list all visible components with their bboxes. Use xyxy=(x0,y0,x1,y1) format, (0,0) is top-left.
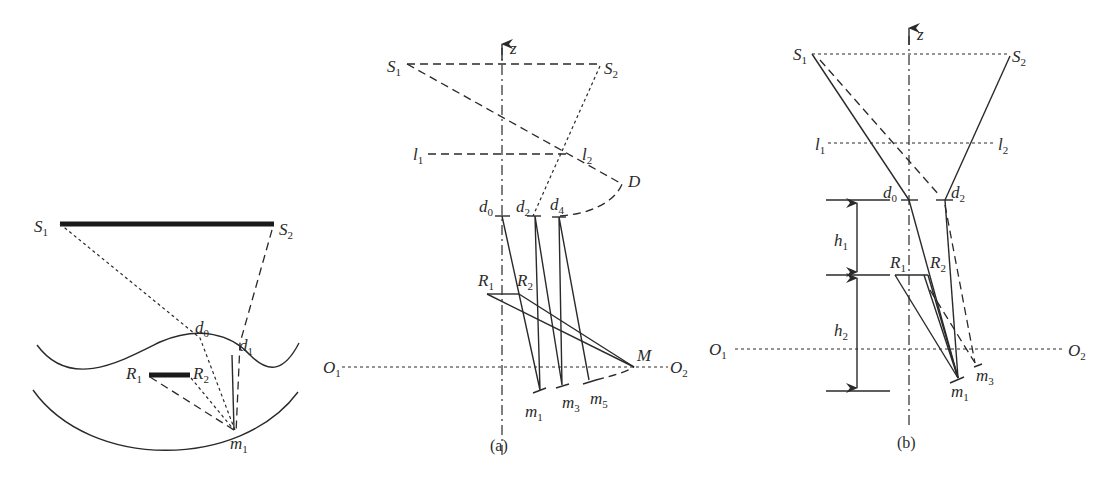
d-arc xyxy=(560,184,622,216)
label-s1-a: S1 xyxy=(387,57,401,78)
label-s2-b: S2 xyxy=(1012,47,1026,68)
label-l1-a: l1 xyxy=(413,145,423,166)
label-m-point-a: M xyxy=(636,346,652,365)
left-panel: S1 S2 d0 d1 R1 R2 m1 xyxy=(33,217,299,455)
panel-b: z S1 S2 l1 l2 d0 d2 h1 h2 R1 R2 O1 O2 m1… xyxy=(709,25,1086,452)
ray-r1-m1 xyxy=(150,377,234,430)
ray-s1-d2-dashed xyxy=(820,60,940,196)
ray-r2-m1 xyxy=(191,378,234,430)
ray-s2-d2 xyxy=(945,56,1010,200)
label-r1-b: R1 xyxy=(889,253,906,274)
label-z-a: z xyxy=(509,39,517,58)
ray-s1-d xyxy=(407,64,622,184)
label-d0-b: d0 xyxy=(883,183,898,204)
ray-r2-m xyxy=(519,294,634,367)
label-o2-b: O2 xyxy=(1068,341,1086,362)
upper-interface-curve xyxy=(37,333,299,369)
label-l2-a: l2 xyxy=(582,145,592,166)
label-d1: d1 xyxy=(239,336,253,357)
label-m1: m1 xyxy=(230,434,248,455)
ray-s1-d0 xyxy=(812,54,909,200)
lower-reflector-curve xyxy=(33,390,298,450)
ray-d2-m1 xyxy=(945,200,958,378)
label-m3-a: m3 xyxy=(562,393,580,414)
label-s1: S1 xyxy=(34,217,48,238)
ray-zigzag-d-m xyxy=(502,216,589,390)
caption-a: (a) xyxy=(490,437,508,455)
panel-a: z S1 S2 l1 l2 D d0 d2 d4 R1 R2 M O1 O2 m… xyxy=(323,39,688,455)
label-s1-b: S1 xyxy=(793,45,807,66)
caption-b: (b) xyxy=(897,434,916,452)
label-l1-b: l1 xyxy=(815,135,825,156)
ray-s2-d1-m1 xyxy=(236,230,272,433)
label-z-b: z xyxy=(916,25,924,44)
m-arc xyxy=(596,367,634,380)
label-r2-b: R2 xyxy=(929,253,946,274)
label-s2: S2 xyxy=(279,220,293,241)
figure-canvas: S1 S2 d0 d1 R1 R2 m1 xyxy=(0,0,1120,482)
label-d0-a: d0 xyxy=(479,197,494,218)
label-r1: R1 xyxy=(125,364,142,385)
label-d2-a: d2 xyxy=(516,197,530,218)
label-s2-a: S2 xyxy=(604,59,618,80)
label-m3-b: m3 xyxy=(976,366,994,387)
label-d-point-a: D xyxy=(627,172,641,191)
label-m1-b: m1 xyxy=(951,382,969,403)
label-d2-b: d2 xyxy=(951,183,965,204)
label-h1: h1 xyxy=(834,231,848,252)
label-r2-a: R2 xyxy=(516,271,533,292)
ray-s1-d0-m1 xyxy=(60,224,236,433)
label-m5-a: m5 xyxy=(590,389,608,410)
label-o1-a: O1 xyxy=(323,358,341,379)
label-r1-a: R1 xyxy=(477,271,494,292)
label-d4-a: d4 xyxy=(550,195,565,216)
label-l2-b: l2 xyxy=(998,135,1008,156)
label-m1-a: m1 xyxy=(525,402,543,423)
label-o2-a: O2 xyxy=(670,358,688,379)
label-d0: d0 xyxy=(195,318,210,339)
label-r2: R2 xyxy=(192,364,209,385)
label-o1-b: O1 xyxy=(709,340,727,361)
ray-r1-m1 xyxy=(895,275,958,378)
label-h2: h2 xyxy=(834,321,848,342)
ray-d1-m1 xyxy=(232,355,234,430)
ray-s2-d2 xyxy=(533,66,600,216)
tick-m5 xyxy=(583,380,596,384)
